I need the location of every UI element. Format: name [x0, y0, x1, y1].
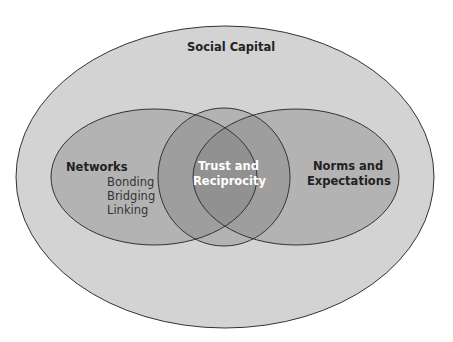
networks-item-bonding: Bonding [107, 175, 154, 189]
networks-item-linking: Linking [107, 203, 148, 217]
networks-label: Networks [66, 160, 128, 174]
norms-label-line2: Expectations [307, 174, 391, 188]
networks-item-bridging: Bridging [107, 189, 155, 203]
social-capital-label: Social Capital [187, 40, 275, 54]
norms-label-line1: Norms and [313, 159, 383, 173]
trust-label-line1: Trust and [198, 159, 259, 173]
trust-label-line2: Reciprocity [193, 174, 266, 188]
